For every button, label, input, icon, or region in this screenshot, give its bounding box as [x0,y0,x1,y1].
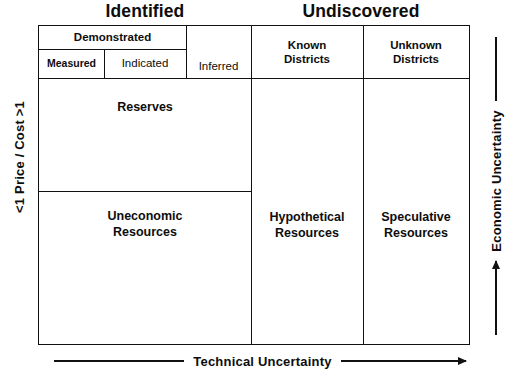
header-inferred: Inferred [186,26,251,78]
header-known-districts-line1: Known [288,39,326,51]
header-known-districts: Known Districts [251,26,363,78]
cell-speculative-resources: Speculative Resources [363,78,469,344]
cell-reserves: Reserves [39,78,251,191]
axis-economic-uncertainty: Economic Uncertainty [485,28,507,344]
rule-demonstrated-inferred [186,26,187,78]
axis-rule-right [495,37,496,101]
cell-hypothetical-line1: Hypothetical [269,210,344,224]
cell-uneconomic-line1: Uneconomic [107,209,182,223]
header-indicated: Indicated [104,49,186,78]
axis-label-technical-uncertainty: Technical Uncertainty [193,354,331,369]
rule-identified-undiscovered [251,26,252,344]
header-unknown-districts: Unknown Districts [363,26,469,78]
header-demonstrated: Demonstrated [39,26,186,49]
cell-hypothetical-resources: Hypothetical Resources [251,78,363,344]
rule-under-demonstrated [39,49,186,50]
axis-label-price-cost: <1 Price / Cost >1 [12,57,32,257]
header-unknown-districts-line2: Districts [393,53,439,65]
axis-label-economic-uncertainty: Economic Uncertainty [489,110,504,251]
axis-rule-left [54,360,184,361]
rule-under-header-band [39,78,469,79]
mckelvey-diagram: Identified Undiscovered Demonstrated Mea… [0,0,520,378]
cell-uneconomic-resources: Uneconomic Resources [39,191,251,344]
heading-undiscovered: Undiscovered [252,0,470,24]
rule-known-unknown [363,26,364,344]
arrow-left-icon [491,261,501,335]
resource-matrix: Demonstrated Measured Indicated Inferred… [38,25,470,345]
cell-hypothetical-line2: Resources [275,226,339,240]
cell-speculative-line1: Speculative [381,210,450,224]
cell-speculative-line2: Resources [384,226,448,240]
heading-identified: Identified [38,0,252,24]
header-unknown-districts-line1: Unknown [390,39,442,51]
header-measured: Measured [39,49,104,78]
axis-technical-uncertainty: Technical Uncertainty [50,350,470,372]
cell-uneconomic-line2: Resources [113,225,177,239]
header-known-districts-line2: Districts [284,53,330,65]
arrow-right-icon [341,356,466,366]
rule-reserves-uneconomic [39,191,251,192]
rule-measured-indicated [104,49,105,78]
